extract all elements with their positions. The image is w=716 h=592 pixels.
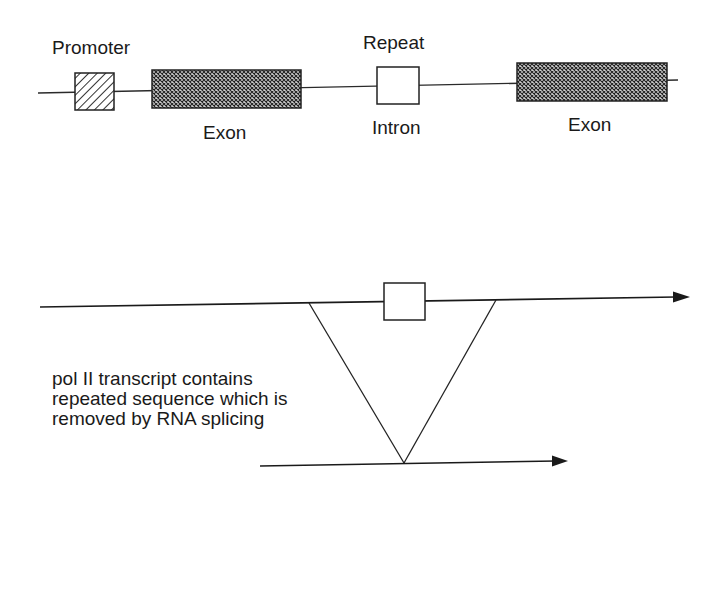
repeat-label: Repeat <box>363 32 425 53</box>
promoter-box <box>75 73 114 110</box>
intron-label: Intron <box>372 117 421 138</box>
splicing-note: pol II transcript contains repeated sequ… <box>52 368 293 429</box>
spliced-mrna-line <box>260 461 556 466</box>
promoter-label: Promoter <box>52 37 131 58</box>
exon-2-label: Exon <box>568 114 611 135</box>
gene-map: Promoter Exon Repeat Intron Exon <box>38 32 678 143</box>
splicing-note-line-1: pol II transcript contains <box>52 368 253 389</box>
splice-left-line <box>309 303 404 463</box>
primary-transcript-line <box>40 297 676 307</box>
exon-2-box <box>517 63 667 101</box>
exon-1-box <box>152 70 301 108</box>
diagram-canvas: Promoter Exon Repeat Intron Exon pol II … <box>0 0 716 592</box>
primary-transcript-arrowhead <box>673 292 690 303</box>
spliced-mrna-arrowhead <box>552 456 568 467</box>
exon-1-label: Exon <box>203 122 246 143</box>
splicing-note-line-3: removed by RNA splicing <box>52 408 264 429</box>
splicing-diagram: pol II transcript contains repeated sequ… <box>40 283 690 467</box>
splice-right-line <box>404 300 496 463</box>
transcript-repeat-box <box>384 283 425 320</box>
repeat-box <box>377 67 419 104</box>
splicing-note-line-2: repeated sequence which is <box>52 388 288 409</box>
